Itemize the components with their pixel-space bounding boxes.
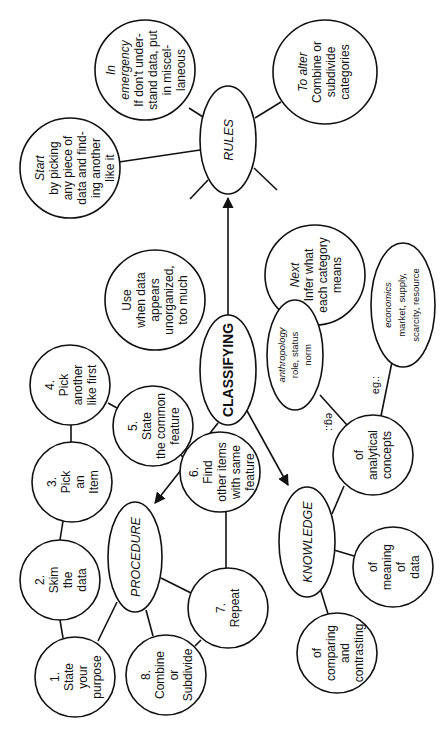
rule-start-heading: Start (33, 155, 47, 181)
rule-use-line: too much (176, 275, 190, 324)
step1-num: 1. (48, 672, 62, 682)
comparing-line: and (338, 643, 352, 663)
meaning-line: data (408, 555, 422, 579)
step4-num: 4. (43, 380, 57, 390)
node-step2: 2. Skim the data (20, 540, 100, 620)
step6-num: 6. (187, 467, 201, 477)
economics-line: scarcity, resource (410, 268, 421, 342)
node-step1: 1. State your purpose (35, 637, 115, 717)
step6-line: Find (201, 460, 215, 483)
step8-line: Subdivide (181, 648, 195, 701)
rule-use-line: appears (148, 278, 162, 321)
step7-num: 7. (214, 603, 228, 613)
edge-step2-step1 (60, 620, 63, 638)
step5-line: the common (154, 393, 168, 459)
edge-procedure-step7 (161, 578, 191, 593)
step7-line: Repeat (228, 588, 242, 627)
rule-start-line: any piece of (61, 135, 75, 200)
concept-map: eg.: eg.: RULES Start by picking any pie… (0, 0, 443, 747)
step3-line: Item (87, 470, 101, 493)
rule-emergency-heading: In (104, 65, 118, 75)
node-classifying: CLASSIFYING (200, 315, 256, 425)
classifying-label: CLASSIFYING (220, 323, 236, 417)
meaning-line: of (394, 561, 408, 572)
edge-rules-use (190, 180, 208, 199)
node-anthropology: anthropology role, status norm (267, 300, 323, 410)
anthropology-line: role, status (289, 332, 300, 379)
rule-next-line: means (330, 257, 344, 293)
node-step7: 7. Repeat (188, 568, 268, 648)
edge-analytical-economics (381, 357, 393, 416)
step3-num: 3. (45, 477, 59, 487)
step8-line: or (167, 670, 181, 681)
node-meaning-of-data: of meaning of data (353, 527, 433, 607)
rule-alter-heading: To alter (296, 51, 310, 92)
eg-label-economics: eg.: (369, 376, 381, 394)
step1-line: State (62, 663, 76, 691)
node-step3: 3. Pick an Item (32, 442, 112, 522)
edge-knowledge-comparing (320, 588, 328, 614)
rule-emergency-line: in miscel- (160, 45, 174, 96)
edge-rules-emergency (189, 108, 203, 117)
rule-alter-line: Combine or (310, 41, 324, 103)
analytical-line: of (352, 449, 366, 460)
step6-line: with same (229, 445, 243, 500)
node-rule-alter: To alter Combine or subdivide categories (273, 20, 377, 124)
edge-rules-next (254, 168, 277, 190)
step4-line: Pick (57, 373, 71, 397)
node-rule-start: Start by picking any piece of data and f… (20, 118, 120, 218)
step6-line: feature (243, 453, 257, 491)
rule-alter-line: subdivide (324, 46, 338, 97)
analytical-line: concepts (380, 431, 394, 479)
node-rules: RULES (200, 86, 256, 194)
meaning-line: of (366, 561, 380, 572)
knowledge-label: KNOWLEDGE (301, 501, 315, 583)
procedure-label: PROCEDURE (129, 516, 143, 597)
step5-line: feature (168, 407, 182, 445)
rule-use-heading: Use (120, 289, 134, 311)
rule-emergency-line: laneous (174, 49, 188, 91)
node-step6: 6. Find other items with same feature (180, 432, 260, 512)
step5-line: State (140, 412, 154, 440)
edge-knowledge-meaning (334, 550, 354, 556)
node-step4: 4. Pick another like first (30, 345, 110, 425)
step8-num: 8. (139, 670, 153, 680)
edge-knowledge-analytical (332, 486, 344, 514)
economics-line: market, supply, (396, 273, 407, 337)
step2-line: data (75, 568, 89, 592)
node-rule-use: Use when data appears unorganized, too m… (105, 250, 205, 350)
rule-use-line: unorganized, (162, 265, 176, 334)
economics-heading: economics (382, 282, 393, 328)
rule-emergency-line: If don't under- (132, 33, 146, 107)
node-procedure: PROCEDURE (108, 502, 162, 612)
step8-line: Combine (153, 651, 167, 699)
rule-next-heading: Next (288, 262, 302, 287)
node-analytical-concepts: of analytical concepts (333, 415, 413, 495)
rule-emergency-heading: emergency (118, 39, 132, 99)
step2-line: Skim (47, 567, 61, 594)
step1-line: your (76, 665, 90, 688)
step2-line: the (61, 571, 75, 588)
comparing-line: contrasting (352, 624, 366, 683)
node-rule-emergency: In emergency If don't under- stand data,… (95, 20, 195, 120)
edge-rules-alter (255, 102, 281, 118)
rule-alter-line: categories (338, 44, 352, 99)
anthropology-heading: anthropology (276, 326, 287, 382)
anthropology-line: norm (302, 344, 313, 366)
node-economics: economics market, supply, scarcity, reso… (371, 243, 435, 367)
rules-label: RULES (222, 119, 236, 161)
edge-step4-step5 (108, 403, 117, 408)
node-step5: 5. State the common feature (113, 386, 193, 466)
rule-start-line: by picking (47, 141, 61, 194)
edge-rules-start (119, 150, 200, 162)
rule-next-line: each category (316, 237, 330, 312)
rule-emergency-line: stand data, put (146, 30, 160, 110)
step6-line: other items (215, 442, 229, 501)
node-comparing: of comparing and contrasting (297, 613, 377, 693)
rule-next-line: Infer what (302, 248, 316, 301)
step4-line: another (71, 365, 85, 406)
comparing-line: of (310, 647, 324, 658)
comparing-line: comparing (324, 625, 338, 681)
step4-line: like first (85, 364, 99, 405)
edge-step7-step8 (195, 640, 201, 646)
